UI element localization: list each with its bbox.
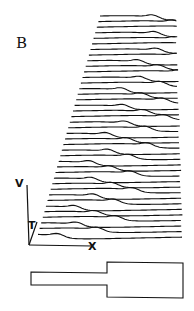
trace — [65, 138, 179, 143]
trace — [100, 15, 176, 20]
trace — [59, 161, 181, 166]
v-axis — [27, 185, 29, 245]
trace — [38, 233, 182, 239]
trace — [44, 211, 182, 216]
trace — [94, 37, 176, 39]
trace — [92, 43, 176, 44]
x-axis-label: X — [88, 240, 97, 253]
axes — [27, 185, 92, 246]
trace — [43, 216, 181, 221]
trace — [48, 199, 182, 204]
trace — [60, 154, 180, 159]
trace — [63, 143, 179, 148]
trace — [83, 76, 179, 81]
trace — [98, 20, 176, 22]
x-axis — [29, 245, 92, 246]
trace — [76, 98, 178, 103]
trace — [81, 81, 177, 86]
figure-panel: B V T X — [0, 0, 194, 311]
geometry-schematic — [31, 262, 183, 298]
trace — [46, 205, 182, 210]
trace — [97, 26, 177, 27]
trace — [67, 132, 179, 138]
trace — [84, 70, 178, 72]
trace — [49, 194, 181, 199]
trace — [40, 227, 182, 232]
trace — [87, 60, 177, 65]
v-axis-label: V — [15, 177, 24, 190]
waterfall-plot: V T X — [0, 0, 194, 311]
trace — [62, 149, 180, 154]
trace — [79, 88, 177, 93]
trace — [71, 115, 179, 120]
trace — [78, 93, 178, 98]
trace — [51, 188, 181, 193]
trace — [68, 126, 178, 131]
trace — [91, 48, 177, 53]
t-axis-label: T — [28, 219, 36, 232]
trace — [75, 104, 179, 109]
traces — [38, 15, 182, 239]
trace — [41, 222, 181, 227]
trace — [56, 171, 180, 176]
trace — [70, 121, 180, 126]
trace — [54, 177, 180, 182]
trace — [95, 31, 177, 36]
trace — [89, 53, 177, 55]
